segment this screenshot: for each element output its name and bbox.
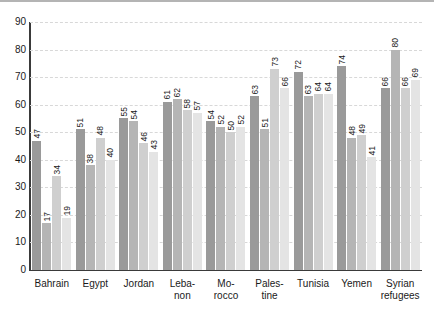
x-axis-line xyxy=(29,270,422,271)
category-label-bahrain: Bahrain xyxy=(30,278,74,302)
bar-group-tunisia: 72636464 xyxy=(291,22,335,270)
bar[interactable] xyxy=(314,94,323,270)
bar-value-label: 49 xyxy=(357,124,366,133)
bar[interactable] xyxy=(173,99,182,270)
bar[interactable] xyxy=(106,160,115,270)
bar-value-label: 43 xyxy=(149,140,158,149)
bar-wrapper: 66 xyxy=(401,88,410,270)
bars: 47173419 xyxy=(32,22,71,270)
bars: 54525052 xyxy=(206,22,245,270)
bar[interactable] xyxy=(357,135,366,270)
bar[interactable] xyxy=(96,138,105,270)
bar-group-syrian-refugees: 66806669 xyxy=(378,22,422,270)
bar[interactable] xyxy=(280,88,289,270)
bar[interactable] xyxy=(324,94,333,270)
bar-chart: 9080706050403020100 47173419513848405554… xyxy=(0,0,434,317)
bar[interactable] xyxy=(381,88,390,270)
bar[interactable] xyxy=(216,127,225,270)
bar[interactable] xyxy=(86,165,95,270)
bar-wrapper: 64 xyxy=(314,94,323,270)
category-label-line: Bahrain xyxy=(30,278,74,290)
bar-wrapper: 72 xyxy=(294,72,303,270)
bar-wrapper: 52 xyxy=(236,127,245,270)
bar-group-palestine: 63517366 xyxy=(248,22,292,270)
bar-value-label: 80 xyxy=(391,38,400,47)
bar[interactable] xyxy=(236,127,245,270)
y-tick-0: 0 xyxy=(0,265,26,275)
bars: 51384840 xyxy=(76,22,115,270)
bar-wrapper: 69 xyxy=(411,80,420,270)
category-label-lebanon: Leba-non xyxy=(161,278,205,302)
bar-group-morocco: 54525052 xyxy=(204,22,248,270)
category-label-line: tine xyxy=(248,290,292,302)
bar-wrapper: 38 xyxy=(86,165,95,270)
bar[interactable] xyxy=(367,157,376,270)
bar-value-label: 55 xyxy=(119,107,128,116)
bar-value-label: 72 xyxy=(294,60,303,69)
bar-value-label: 51 xyxy=(260,118,269,127)
bar-value-label: 66 xyxy=(381,77,390,86)
category-label-yemen: Yemen xyxy=(335,278,379,302)
y-tick-20: 20 xyxy=(0,210,26,220)
bar-wrapper: 48 xyxy=(347,138,356,270)
bar-wrapper: 57 xyxy=(193,113,202,270)
bar[interactable] xyxy=(260,129,269,270)
y-tick-40: 40 xyxy=(0,155,26,165)
bar[interactable] xyxy=(129,121,138,270)
bar-value-label: 57 xyxy=(193,101,202,110)
bar[interactable] xyxy=(76,129,85,270)
bar[interactable] xyxy=(294,72,303,270)
bar-value-label: 63 xyxy=(250,85,259,94)
bar-wrapper: 80 xyxy=(391,50,400,270)
bar[interactable] xyxy=(193,113,202,270)
bar[interactable] xyxy=(250,96,259,270)
bar-wrapper: 51 xyxy=(260,129,269,270)
bar[interactable] xyxy=(139,143,148,270)
bar[interactable] xyxy=(270,69,279,270)
bar-wrapper: 74 xyxy=(337,66,346,270)
bar-value-label: 64 xyxy=(314,82,323,91)
bar[interactable] xyxy=(62,218,71,270)
bar[interactable] xyxy=(391,50,400,270)
bar-value-label: 47 xyxy=(32,129,41,138)
category-label-morocco: Mo-rocco xyxy=(204,278,248,302)
bar-group-egypt: 51384840 xyxy=(74,22,118,270)
bar-wrapper: 48 xyxy=(96,138,105,270)
bar[interactable] xyxy=(183,110,192,270)
bar[interactable] xyxy=(42,223,51,270)
category-label-line: Pales- xyxy=(248,278,292,290)
bar[interactable] xyxy=(149,152,158,270)
bar-value-label: 40 xyxy=(106,148,115,157)
bar[interactable] xyxy=(119,118,128,270)
y-tick-60: 60 xyxy=(0,100,26,110)
bar-value-label: 48 xyxy=(96,126,105,135)
bar[interactable] xyxy=(304,96,313,270)
bar[interactable] xyxy=(347,138,356,270)
bar-wrapper: 55 xyxy=(119,118,128,270)
category-label-tunisia: Tunisia xyxy=(291,278,335,302)
bar-value-label: 66 xyxy=(401,77,410,86)
bar-wrapper: 58 xyxy=(183,110,192,270)
bar[interactable] xyxy=(163,102,172,270)
bars: 61625857 xyxy=(163,22,202,270)
bar-value-label: 52 xyxy=(236,115,245,124)
bar[interactable] xyxy=(206,121,215,270)
x-axis-category-labels: BahrainEgyptJordanLeba-nonMo-roccoPales-… xyxy=(30,278,422,302)
bar[interactable] xyxy=(226,132,235,270)
category-label-line: Syrian xyxy=(378,278,422,290)
bar-wrapper: 41 xyxy=(367,157,376,270)
y-tick-90: 90 xyxy=(0,17,26,27)
bar[interactable] xyxy=(401,88,410,270)
category-label-palestine: Pales-tine xyxy=(248,278,292,302)
bar[interactable] xyxy=(411,80,420,270)
bar-value-label: 62 xyxy=(173,88,182,97)
bar-group-lebanon: 61625857 xyxy=(161,22,205,270)
bar-value-label: 46 xyxy=(139,132,148,141)
category-label-line: non xyxy=(161,290,205,302)
bar-wrapper: 52 xyxy=(216,127,225,270)
bar[interactable] xyxy=(337,66,346,270)
bar[interactable] xyxy=(32,141,41,271)
bar-value-label: 34 xyxy=(52,165,61,174)
bar[interactable] xyxy=(52,176,61,270)
bar-groups: 4717341951384840555446436162585754525052… xyxy=(30,22,422,270)
